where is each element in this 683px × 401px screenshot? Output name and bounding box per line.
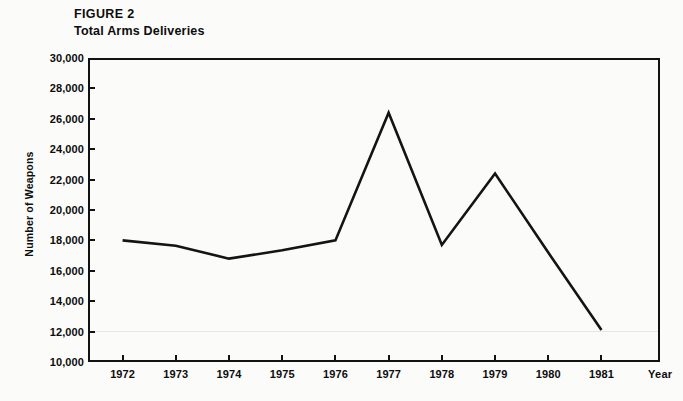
y-axis-tick-label: 10,000: [6, 356, 84, 368]
y-axis-tick-mark: [88, 118, 95, 120]
x-axis-tick-mark: [388, 355, 390, 362]
x-axis-tick-mark: [494, 355, 496, 362]
y-axis-tick-label: 26,000: [6, 113, 84, 125]
y-axis-tick-mark: [88, 270, 95, 272]
x-axis-tick-mark: [175, 355, 177, 362]
y-axis-tick-label: 20,000: [6, 204, 84, 216]
y-axis-tick-label: 30,000: [6, 52, 84, 64]
plot-area: [88, 58, 660, 362]
x-axis-tick-mark: [334, 355, 336, 362]
y-axis-tick-label: 14,000: [6, 295, 84, 307]
y-axis-tick-mark: [88, 209, 95, 211]
x-axis-tick-mark: [547, 355, 549, 362]
figure-container: FIGURE 2 Total Arms Deliveries Number of…: [0, 0, 683, 401]
y-axis-tick-label: 24,000: [6, 143, 84, 155]
x-axis-tick-mark: [441, 355, 443, 362]
x-axis-tick-mark: [281, 355, 283, 362]
y-axis-tick-label: 28,000: [6, 82, 84, 94]
y-axis-tick-label: 16,000: [6, 265, 84, 277]
figure-subtitle: Total Arms Deliveries: [74, 23, 205, 40]
x-axis-tick-mark: [600, 355, 602, 362]
y-axis-tick-mark: [88, 87, 95, 89]
figure-title-block: FIGURE 2 Total Arms Deliveries: [74, 6, 205, 39]
x-axis-title: Year: [648, 368, 672, 380]
figure-number: FIGURE 2: [74, 6, 205, 23]
x-axis-tick-mark: [122, 355, 124, 362]
y-axis-tick-label: 12,000: [6, 326, 84, 338]
y-axis-tick-mark: [88, 239, 95, 241]
x-axis-tick-label: 1981: [569, 368, 633, 380]
y-axis-tick-label: 18,000: [6, 234, 84, 246]
y-axis-tick-mark: [88, 148, 95, 150]
scan-artifact: [90, 331, 658, 332]
y-axis-tick-mark: [88, 331, 95, 333]
y-axis-tick-mark: [88, 300, 95, 302]
y-axis-tick-mark: [88, 179, 95, 181]
y-axis-tick-label: 22,000: [6, 174, 84, 186]
x-axis-tick-mark: [228, 355, 230, 362]
